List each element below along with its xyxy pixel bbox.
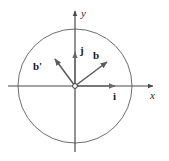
vector-b-arrow <box>75 62 107 86</box>
unit-circle-vector-diagram: x y i j b b' <box>0 0 169 161</box>
vector-b-label: b <box>93 49 99 61</box>
vector-b-prime-label: b' <box>33 60 42 72</box>
y-axis-label: y <box>80 7 86 19</box>
vector-i-label: i <box>113 90 116 102</box>
x-axis-label: x <box>149 89 155 101</box>
vector-j-label: j <box>79 44 84 56</box>
origin-marker <box>73 84 78 89</box>
vector-b-prime-arrow <box>55 59 75 86</box>
vector-diagram-figure: x y i j b b' <box>0 0 169 161</box>
